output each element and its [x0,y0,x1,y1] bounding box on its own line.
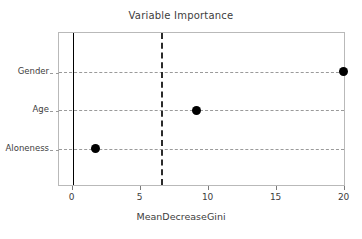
zero-line [73,33,74,185]
data-point-aloneness[interactable] [91,144,100,153]
x-tick-5 [140,186,141,190]
row-tick-gender [50,73,59,74]
gridline-gender [59,72,344,73]
row-tick-age [50,111,59,112]
x-tick-label-10: 10 [202,192,213,202]
x-tick-label-5: 5 [137,192,143,202]
y-label-gender: Gender [18,66,49,76]
x-axis-title: MeanDecreaseGini [0,211,362,222]
variable-importance-chart: Variable Importance AlonenessAgeGender 0… [0,0,362,239]
plot-panel [58,32,345,186]
x-tick-15 [276,186,277,190]
row-tick-aloneness [50,150,59,151]
data-point-gender[interactable] [339,67,348,76]
y-label-aloneness: Aloneness [6,143,49,153]
y-label-age: Age [33,104,49,114]
x-axis: 05101520 [58,186,345,210]
x-tick-label-20: 20 [338,192,349,202]
x-tick-label-0: 0 [69,192,75,202]
gridline-age [59,110,344,111]
x-tick-10 [208,186,209,190]
threshold-line [161,33,163,185]
chart-title: Variable Importance [0,10,362,21]
x-tick-20 [344,186,345,190]
gridline-aloneness [59,149,344,150]
data-point-age[interactable] [192,106,201,115]
x-tick-0 [72,186,73,190]
x-tick-label-15: 15 [270,192,281,202]
y-axis-category-labels: AlonenessAgeGender [0,32,49,186]
